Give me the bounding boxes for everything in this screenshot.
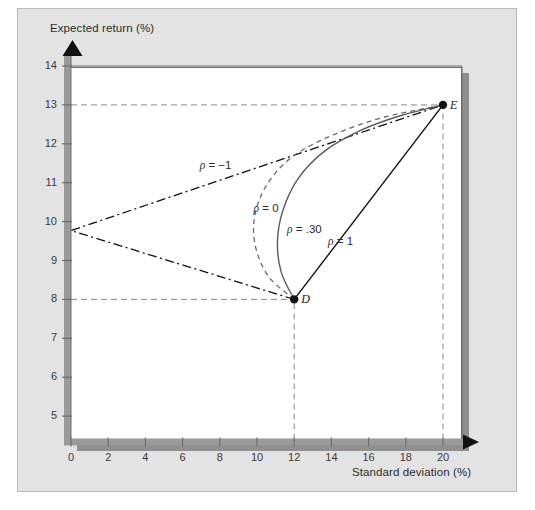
- chart-canvas: [0, 0, 535, 510]
- y-axis-title: Expected return (%): [50, 22, 154, 34]
- data-point-E[interactable]: [439, 101, 447, 109]
- y-tick-label: 14: [35, 59, 57, 71]
- x-tick-label: 20: [432, 451, 454, 463]
- y-tick-label: 8: [35, 292, 57, 304]
- chart-figure: Expected return (%) Standard deviation (…: [0, 0, 535, 510]
- x-tick-label: 12: [283, 451, 305, 463]
- curve-label-rho-0: ρ = 0: [254, 202, 279, 214]
- curve-rho-point-30: [277, 105, 443, 300]
- point-label-D: D: [301, 292, 310, 307]
- y-tick-label: 12: [35, 137, 57, 149]
- curve-rho-1: [294, 105, 443, 300]
- data-point-D[interactable]: [290, 295, 298, 303]
- x-tick-label: 6: [172, 451, 194, 463]
- x-tick-label: 18: [395, 451, 417, 463]
- x-tick-label: 4: [134, 451, 156, 463]
- y-tick-label: 13: [35, 98, 57, 110]
- y-tick-label: 5: [35, 409, 57, 421]
- x-tick-label: 2: [97, 451, 119, 463]
- x-axis-arrowhead: [463, 434, 479, 449]
- y-axis-bar: [64, 54, 71, 445]
- curve-label-rho-1: ρ = 1: [328, 235, 353, 247]
- x-tick-label: 14: [320, 451, 342, 463]
- x-axis-title: Standard deviation (%): [352, 466, 471, 478]
- y-tick-label: 11: [35, 176, 57, 188]
- x-axis-bar: [71, 438, 463, 445]
- point-label-E: E: [450, 98, 457, 113]
- y-tick-label: 10: [35, 215, 57, 227]
- x-tick-label: 16: [358, 451, 380, 463]
- curve-label-rho-point-30: ρ = .30: [287, 223, 322, 235]
- x-tick-label: 8: [209, 451, 231, 463]
- y-tick-label: 9: [35, 254, 57, 266]
- x-tick-label: 0: [60, 451, 82, 463]
- y-axis-arrowhead: [63, 40, 83, 56]
- y-tick-label: 7: [35, 331, 57, 343]
- x-tick-label: 10: [246, 451, 268, 463]
- curve-label-rho-minus-1: ρ = −1: [200, 159, 232, 171]
- curve-rho-0: [254, 105, 443, 300]
- y-tick-label: 6: [35, 370, 57, 382]
